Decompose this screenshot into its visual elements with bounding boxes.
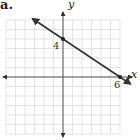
- data-point: [61, 37, 65, 41]
- series-line: [33, 19, 131, 84]
- x-axis-label: x: [131, 68, 137, 81]
- plotted-line: [33, 19, 131, 84]
- axes: [3, 12, 132, 137]
- graph: [0, 0, 140, 140]
- y-intercept-label: 4: [53, 40, 59, 51]
- y-axis-label: y: [68, 0, 74, 11]
- x-intercept-label: 6: [114, 79, 120, 90]
